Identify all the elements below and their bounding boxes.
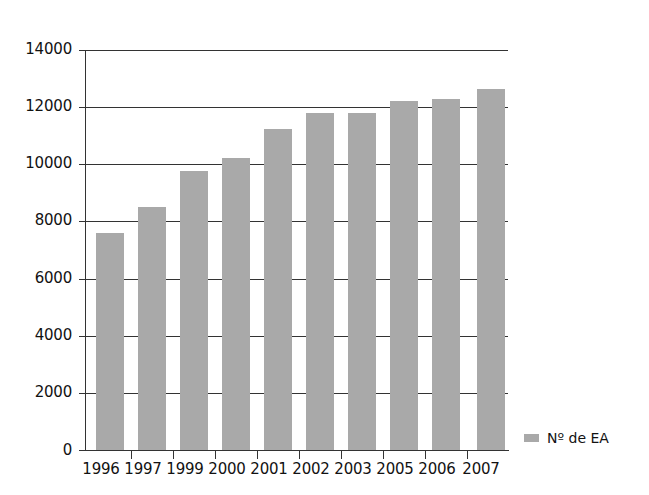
bar-chart: 14000 12000 10000 8000 6000 4000 2000 0	[0, 0, 649, 495]
bar	[348, 113, 376, 450]
x-tick-mark	[215, 451, 216, 459]
y-tick-label: 0	[63, 443, 72, 458]
y-tick-label: 4000	[35, 328, 72, 343]
x-tick-mark	[425, 451, 426, 459]
x-tick-mark	[173, 451, 174, 459]
x-tick-mark	[341, 451, 342, 459]
legend: Nº de EA	[524, 431, 609, 445]
y-tick-label: 10000	[25, 156, 72, 171]
legend-swatch-square	[524, 434, 539, 442]
bar	[264, 129, 292, 450]
bar-series-no-de-ea	[85, 50, 508, 450]
bar	[222, 158, 250, 450]
y-tick-label: 12000	[25, 99, 72, 114]
bar	[390, 101, 418, 450]
bar	[306, 113, 334, 450]
y-tick-label: 8000	[35, 213, 72, 228]
legend-label: Nº de EA	[547, 431, 609, 445]
y-axis	[85, 50, 86, 451]
bar	[180, 171, 208, 450]
x-axis	[85, 450, 509, 451]
x-tick-mark	[299, 451, 300, 459]
y-tick-label: 2000	[35, 385, 72, 400]
bar	[96, 233, 124, 450]
y-tick-label: 14000	[25, 42, 72, 57]
bar	[477, 89, 505, 450]
bar	[432, 99, 460, 450]
y-tick-label: 6000	[35, 271, 72, 286]
bar	[138, 207, 166, 450]
plot-area	[85, 50, 508, 450]
x-tick-mark	[467, 451, 468, 459]
x-tick-mark	[383, 451, 384, 459]
x-tick-label: 2007	[455, 462, 507, 477]
x-tick-mark	[257, 451, 258, 459]
x-tick-mark	[131, 451, 132, 459]
